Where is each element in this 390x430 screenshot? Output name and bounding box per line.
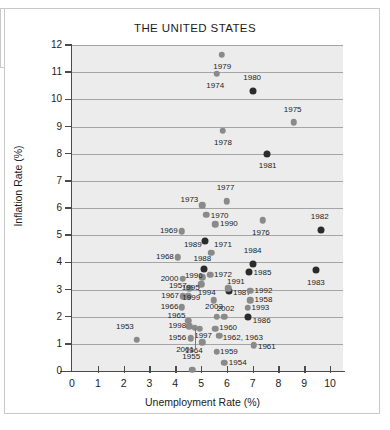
data-point-1989 xyxy=(201,237,208,244)
y-tick-mark-9 xyxy=(65,126,72,127)
x-tick-label-4: 4 xyxy=(165,377,185,389)
data-label-1984: 1984 xyxy=(244,247,262,255)
data-label-1967: 1967 xyxy=(161,292,179,300)
data-point-1993 xyxy=(244,305,251,312)
y-tick-label-7: 7 xyxy=(36,175,62,186)
data-label-1980: 1980 xyxy=(243,74,261,82)
data-label-2003: 2003 xyxy=(205,303,223,311)
y-tick-label-6: 6 xyxy=(36,202,62,213)
data-label-1999: 1999 xyxy=(182,294,200,302)
x-axis-line xyxy=(60,371,345,372)
chart-title: THE UNITED STATES xyxy=(0,22,390,34)
data-label-1954: 1954 xyxy=(229,359,247,367)
y-tick-mark-8 xyxy=(65,153,72,154)
data-point-1990 xyxy=(212,221,219,228)
y-tick-mark-2 xyxy=(65,316,72,317)
data-label-1977: 1977 xyxy=(217,184,235,192)
data-label-1981: 1981 xyxy=(259,162,277,170)
gridline-y-11 xyxy=(72,72,343,73)
y-tick-mark-12 xyxy=(65,44,72,45)
x-tick-label-1: 1 xyxy=(88,377,108,389)
y-tick-label-10: 10 xyxy=(36,93,62,104)
data-label-1973: 1973 xyxy=(181,196,199,204)
x-tick-mark-3 xyxy=(149,366,150,373)
data-label-2000: 2000 xyxy=(161,275,179,283)
data-label-1969: 1969 xyxy=(160,227,178,235)
data-point-1981 xyxy=(263,150,270,157)
data-point-1961 xyxy=(251,342,258,349)
data-point-1986 xyxy=(244,313,251,320)
x-tick-label-9: 9 xyxy=(294,377,314,389)
data-label-1976: 1976 xyxy=(252,229,270,237)
y-tick-mark-1 xyxy=(65,343,72,344)
data-label-1997: 1997 xyxy=(194,332,212,340)
data-label-1986: 1986 xyxy=(253,317,271,325)
y-tick-mark-3 xyxy=(65,289,72,290)
data-label-1979: 1979 xyxy=(213,63,231,71)
data-point-1959 xyxy=(213,349,220,356)
data-point-1968 xyxy=(175,254,182,261)
data-label-1965: 1965 xyxy=(168,312,186,320)
x-tick-mark-6 xyxy=(227,366,228,373)
gridline-y-12 xyxy=(72,45,343,46)
y-tick-label-1: 1 xyxy=(36,338,62,349)
data-label-1966: 1966 xyxy=(161,303,179,311)
data-point-1969 xyxy=(178,228,185,235)
data-point-1984 xyxy=(249,260,256,267)
data-label-1989: 1989 xyxy=(184,241,202,249)
data-label-1990: 1990 xyxy=(220,220,238,228)
data-label-1985: 1985 xyxy=(254,269,272,277)
data-point-1960 xyxy=(212,326,219,333)
data-point-1966 xyxy=(178,304,185,311)
data-point-1979 xyxy=(218,51,225,58)
data-label-1968: 1968 xyxy=(156,253,174,261)
data-point-1985 xyxy=(245,268,252,275)
y-tick-mark-5 xyxy=(65,234,72,235)
x-tick-label-8: 8 xyxy=(268,377,288,389)
data-label-1995: 1995 xyxy=(182,284,200,292)
y-tick-mark-4 xyxy=(65,262,72,263)
data-point-1972 xyxy=(207,271,214,278)
y-axis-title: Inflation Rate (%) xyxy=(12,96,24,276)
y-tick-label-0: 0 xyxy=(36,365,62,376)
y-tick-label-5: 5 xyxy=(36,229,62,240)
data-label-1962-1963: 1962, 1963 xyxy=(223,334,263,342)
x-tick-mark-2 xyxy=(124,366,125,373)
data-label-1956: 1956 xyxy=(168,334,186,342)
x-tick-label-10: 10 xyxy=(320,377,340,389)
x-tick-mark-10 xyxy=(330,366,331,373)
data-label-1996: 1996 xyxy=(185,272,203,280)
data-point-1975 xyxy=(291,119,298,126)
x-axis-title: Unemployment Rate (%) xyxy=(60,396,345,408)
y-tick-mark-6 xyxy=(65,207,72,208)
y-tick-label-8: 8 xyxy=(36,148,62,159)
x-tick-mark-7 xyxy=(253,366,254,373)
x-tick-mark-8 xyxy=(278,366,279,373)
data-point-1980 xyxy=(249,88,256,95)
y-tick-label-12: 12 xyxy=(36,39,62,50)
data-label-1993: 1993 xyxy=(252,304,270,312)
data-point-1978 xyxy=(220,127,227,134)
data-label-1953: 1953 xyxy=(116,323,134,331)
x-tick-label-7: 7 xyxy=(243,377,263,389)
gridline-y-6 xyxy=(72,208,343,209)
gridline-y-2 xyxy=(72,317,343,318)
data-label-1982: 1982 xyxy=(311,213,329,221)
data-label-1983: 1983 xyxy=(307,279,325,287)
data-point-1976 xyxy=(260,217,267,224)
data-point-1956 xyxy=(187,335,194,342)
data-point-1955 xyxy=(189,366,196,373)
data-label-1998: 1998 xyxy=(168,322,186,330)
data-point-1982 xyxy=(318,226,325,233)
data-point-1962-1963 xyxy=(216,332,223,339)
gridline-y-9 xyxy=(72,127,343,128)
data-label-1978: 1978 xyxy=(214,139,232,147)
data-point-1970 xyxy=(203,212,210,219)
data-point-2003 xyxy=(213,313,220,320)
data-point-1953 xyxy=(133,337,140,344)
y-tick-mark-7 xyxy=(65,180,72,181)
y-tick-label-3: 3 xyxy=(36,284,62,295)
x-tick-label-6: 6 xyxy=(217,377,237,389)
data-label-1960: 1960 xyxy=(219,324,237,332)
data-point-1977 xyxy=(224,198,231,205)
